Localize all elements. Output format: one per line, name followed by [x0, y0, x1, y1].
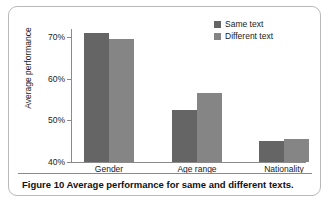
bar-gender-different-text: [109, 39, 134, 162]
bar-age-range-different-text: [197, 93, 222, 162]
caption-divider: [18, 173, 312, 174]
bar-nationality-same-text: [259, 141, 284, 162]
bar-age-range-same-text: [172, 110, 197, 162]
figure-card: Same text Different text Average perform…: [8, 6, 321, 196]
bar-gender-same-text: [84, 33, 109, 162]
bar-series-layer: [9, 7, 322, 169]
bar-nationality-different-text: [284, 139, 309, 162]
chart-plot-area: Same text Different text Average perform…: [9, 7, 322, 169]
figure-caption: Figure 10 Average performance for same a…: [22, 179, 312, 190]
